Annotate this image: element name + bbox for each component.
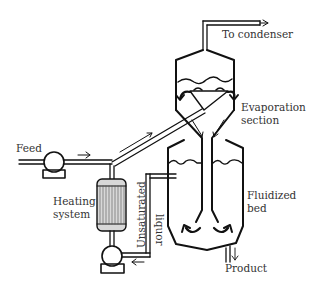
- label-product: Product: [225, 262, 267, 275]
- label-fluidized: Fluidized: [247, 189, 296, 202]
- label-bed: bed: [247, 202, 267, 215]
- fluidized-bed-vessel: [168, 140, 243, 262]
- heating-system: [97, 179, 126, 231]
- arrow-up-right-icon: [120, 133, 152, 152]
- label-feed: Feed: [16, 142, 42, 155]
- heater-inlet-pipe: [110, 164, 114, 179]
- arrow-down-icon: [232, 248, 238, 260]
- label-evaporation: Evaporation: [241, 101, 306, 114]
- label-unsaturated: Unsaturated: [135, 181, 147, 248]
- feed-line: [19, 152, 112, 178]
- label-system: system: [53, 208, 90, 221]
- label-to-condenser: To condenser: [222, 28, 293, 41]
- evaporation-vessel: [176, 50, 238, 150]
- label-liquor: liquor: [154, 214, 166, 246]
- arrow-left-icon: [132, 259, 144, 265]
- arrow-right-icon: [78, 152, 90, 158]
- arrow-right-icon: [260, 20, 268, 26]
- feed-pump: [44, 152, 64, 172]
- riser-pipe: [112, 109, 205, 166]
- label-heating: Heating: [53, 195, 96, 208]
- label-section: section: [241, 114, 279, 127]
- recirculation-pump: [101, 231, 124, 273]
